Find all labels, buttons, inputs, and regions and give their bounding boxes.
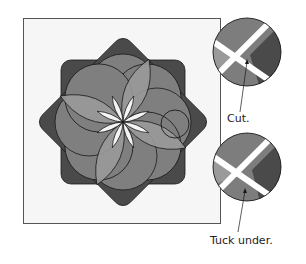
- label-cut: Cut.: [227, 112, 249, 125]
- diagram-canvas: [0, 0, 306, 264]
- detail-tuck-under: [205, 130, 292, 232]
- detail-cut: [205, 15, 292, 112]
- label-tuck-under: Tuck under.: [210, 234, 273, 247]
